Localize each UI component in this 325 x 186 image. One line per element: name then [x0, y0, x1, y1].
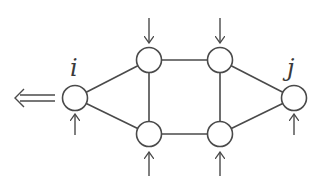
node-top-left	[137, 48, 162, 73]
double-arrow-left-icon	[15, 89, 55, 107]
node-bottom-left	[137, 122, 162, 147]
input-arrows	[75, 18, 294, 176]
label-j: j	[282, 54, 295, 82]
node-bottom-right	[208, 122, 233, 147]
edges	[75, 60, 294, 134]
nodes	[63, 48, 307, 147]
node-top-right	[208, 48, 233, 73]
node-i	[63, 86, 88, 111]
network-diagram: i j	[0, 0, 325, 186]
label-i: i	[70, 54, 78, 82]
node-j	[282, 86, 307, 111]
